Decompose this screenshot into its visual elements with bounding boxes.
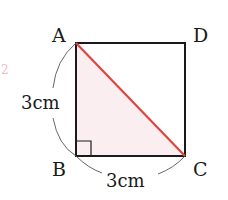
vertex-label-a: A xyxy=(51,24,66,46)
vertex-label-d: D xyxy=(193,24,208,46)
square-diagram: A D B C 3cm 3cm 2 xyxy=(0,0,228,200)
vertex-label-b: B xyxy=(52,158,66,180)
side-ab-length: 3cm xyxy=(21,92,60,113)
margin-mark: 2 xyxy=(1,63,9,77)
side-bc-length: 3cm xyxy=(106,170,145,191)
vertex-label-c: C xyxy=(193,158,208,180)
